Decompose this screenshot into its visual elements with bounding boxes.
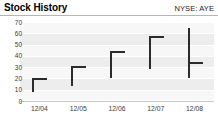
chart-hlc-range-bar: [71, 66, 73, 86]
chart-hlc-range-bar: [110, 51, 112, 78]
chart-gridline: [20, 78, 214, 79]
chart-y-tick-label: 50: [4, 41, 22, 48]
chart-x-axis-line: [20, 101, 214, 102]
chart-gridline: [20, 56, 214, 57]
chart-y-tick-label: 40: [4, 52, 22, 59]
chart-area: 010203040506070 12/0412/0512/0612/0712/0…: [0, 17, 218, 122]
chart-gridline: [20, 22, 214, 23]
chart-y-tick-label: 20: [4, 75, 22, 82]
chart-hlc-range-bar: [188, 28, 190, 79]
chart-hlc-close-tick: [188, 62, 203, 64]
ticker-symbol-label: NYSE: AYE: [174, 4, 214, 13]
chart-gridline-stripe: [20, 22, 214, 33]
chart-y-tick-label: 30: [4, 64, 22, 71]
chart-gridline: [20, 90, 214, 91]
chart-y-tick-label: 10: [4, 86, 22, 93]
chart-y-tick-label: 60: [4, 30, 22, 37]
chart-x-tick-label: 12/04: [31, 105, 48, 112]
chart-hlc-close-tick: [71, 66, 86, 68]
header-divider: [0, 15, 218, 16]
widget-header: Stock History NYSE: AYE: [0, 0, 218, 17]
chart-x-tick-label: 12/07: [147, 105, 164, 112]
page-title: Stock History: [4, 2, 67, 13]
chart-hlc-close-tick: [110, 51, 125, 53]
chart-hlc-close-tick: [149, 36, 164, 38]
chart-y-tick-label: 70: [4, 19, 22, 26]
chart-x-tick-label: 12/08: [186, 105, 203, 112]
chart-gridline: [20, 45, 214, 46]
chart-gridline: [20, 33, 214, 34]
chart-hlc-close-tick: [32, 78, 47, 80]
chart-x-tick-label: 12/05: [70, 105, 87, 112]
chart-plot-region: [20, 22, 214, 101]
chart-x-tick-label: 12/06: [108, 105, 125, 112]
chart-gridline-stripe: [20, 67, 214, 78]
chart-gridline: [20, 67, 214, 68]
chart-hlc-range-bar: [149, 36, 151, 70]
chart-gridline-stripe: [20, 45, 214, 56]
chart-y-tick-label: 0: [4, 98, 22, 105]
chart-hlc-range-bar: [32, 78, 34, 92]
stock-history-widget: Stock History NYSE: AYE 010203040506070 …: [0, 0, 218, 122]
